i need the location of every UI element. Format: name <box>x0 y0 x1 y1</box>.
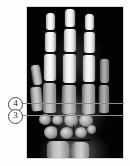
bone-index-middle-phalanx <box>45 32 56 52</box>
figure-container: 4 3 <box>0 0 130 166</box>
bone-ring-proximal-phalanx <box>83 55 95 82</box>
bone-lunate <box>60 127 73 139</box>
bone-index-metacarpal <box>43 83 56 113</box>
joint-radiocarpal <box>45 139 91 141</box>
bone-ring-middle-phalanx <box>84 32 95 53</box>
bone-little-proximal-phalanx <box>100 59 109 83</box>
bone-little-metacarpal <box>99 85 109 113</box>
bone-index-proximal-phalanx <box>44 54 56 81</box>
hand-radiograph-panel <box>26 6 124 159</box>
bone-radius <box>47 141 69 158</box>
bone-middle-middle-phalanx <box>64 29 76 52</box>
bone-ring-distal-phalanx <box>85 14 94 30</box>
bone-pisiform <box>87 125 96 134</box>
bone-scaphoid <box>44 126 58 139</box>
bone-middle-distal-phalanx <box>65 9 75 27</box>
bone-index-distal-phalanx <box>46 13 55 30</box>
section-line-3 <box>20 115 124 116</box>
bone-thumb-metacarpal <box>30 87 43 112</box>
cortex-accent-a <box>57 125 58 139</box>
bone-triquetrum <box>75 127 87 138</box>
bone-trapezoid <box>52 115 63 125</box>
cortex-accent-b <box>73 124 74 139</box>
bone-middle-metacarpal <box>62 85 76 114</box>
bone-ring-metacarpal <box>82 84 95 114</box>
section-marker-badge-3[interactable]: 3 <box>8 109 23 124</box>
section-line-4 <box>20 103 124 104</box>
radiograph-image <box>27 7 123 158</box>
bone-ulna <box>72 142 89 158</box>
bone-middle-proximal-phalanx <box>63 54 76 83</box>
